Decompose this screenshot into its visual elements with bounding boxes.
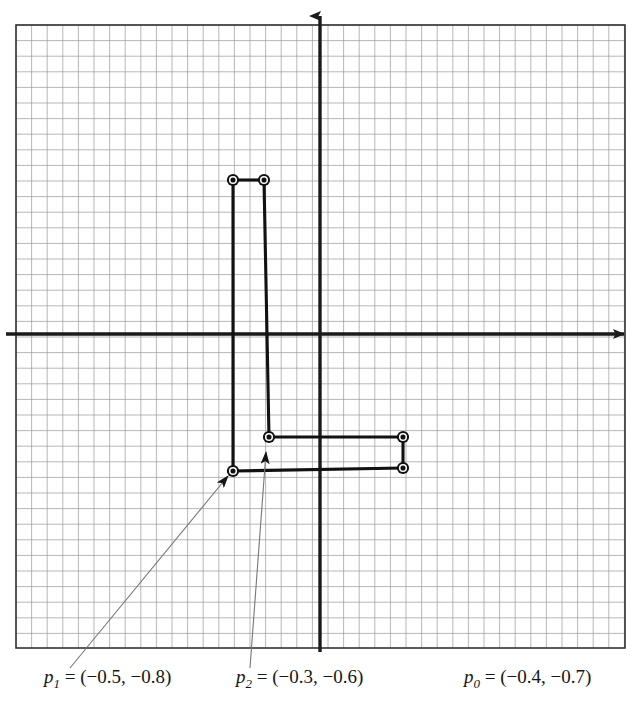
caption-p0-value: = (−0.4, −0.7) (480, 666, 591, 687)
point-marker-core-p0-lower (401, 466, 404, 469)
caption-p2-value: = (−0.3, −0.6) (252, 666, 363, 687)
point-marker-core-p0-upper (401, 435, 404, 438)
point-marker-core-p1-lower (231, 469, 234, 472)
caption-p0: p0 = (−0.4, −0.7) (464, 666, 591, 692)
point-marker-core-p2-lower (267, 435, 270, 438)
caption-p0-var: p (464, 666, 474, 687)
point-marker-core-p2-upper (262, 178, 265, 181)
caption-p1: p1 = (−0.5, −0.8) (44, 666, 171, 692)
coordinate-grid-figure (0, 0, 641, 718)
caption-p2-var: p (236, 666, 246, 687)
caption-p2: p2 = (−0.3, −0.6) (236, 666, 363, 692)
caption-p1-value: = (−0.5, −0.8) (60, 666, 171, 687)
caption-p1-var: p (44, 666, 54, 687)
point-captions: p1 = (−0.5, −0.8) p2 = (−0.3, −0.6) p0 =… (0, 666, 641, 718)
point-marker-core-p1-upper (231, 178, 234, 181)
